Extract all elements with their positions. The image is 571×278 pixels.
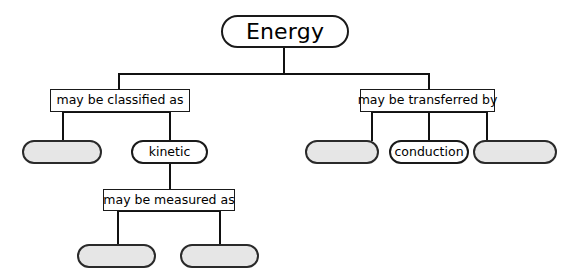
connector-measured-child-1 bbox=[117, 210, 119, 245]
connector-classified-child-2 bbox=[169, 111, 171, 141]
linking-phrase-may-be-measured-as[interactable]: may be measured as bbox=[103, 189, 235, 211]
node-conduction[interactable]: conduction bbox=[389, 140, 469, 164]
node-energy-label: Energy bbox=[246, 21, 324, 43]
connector-top-bar bbox=[118, 73, 430, 75]
linking-phrase-label: may be classified as bbox=[57, 94, 184, 107]
node-blank-transferred-2[interactable] bbox=[473, 140, 557, 164]
connector-classified-child-1 bbox=[62, 111, 64, 141]
connector-to-transferred bbox=[428, 73, 430, 90]
node-blank-transferred-1[interactable] bbox=[305, 140, 379, 164]
linking-phrase-label: may be measured as bbox=[103, 194, 234, 207]
node-kinetic-label: kinetic bbox=[149, 146, 191, 159]
node-kinetic[interactable]: kinetic bbox=[131, 140, 208, 164]
node-blank-classified-1[interactable] bbox=[22, 140, 102, 164]
connector-kinetic-stem bbox=[169, 163, 171, 190]
connector-measured-child-2 bbox=[219, 210, 221, 245]
linking-phrase-label: may be transferred by bbox=[358, 94, 498, 107]
linking-phrase-may-be-classified-as[interactable]: may be classified as bbox=[50, 89, 190, 112]
connector-transferred-child-2 bbox=[428, 111, 430, 141]
node-blank-measured-2[interactable] bbox=[180, 244, 259, 268]
connector-transferred-child-1 bbox=[371, 111, 373, 141]
connector-transferred-child-3 bbox=[486, 111, 488, 141]
node-energy[interactable]: Energy bbox=[221, 15, 349, 48]
connector-root-stem bbox=[283, 47, 285, 75]
node-conduction-label: conduction bbox=[394, 146, 463, 159]
concept-map-diagram: Energy may be classified as may be trans… bbox=[0, 0, 571, 278]
linking-phrase-may-be-transferred-by[interactable]: may be transferred by bbox=[360, 89, 495, 112]
node-blank-measured-1[interactable] bbox=[77, 244, 156, 268]
connector-to-classified bbox=[118, 73, 120, 90]
